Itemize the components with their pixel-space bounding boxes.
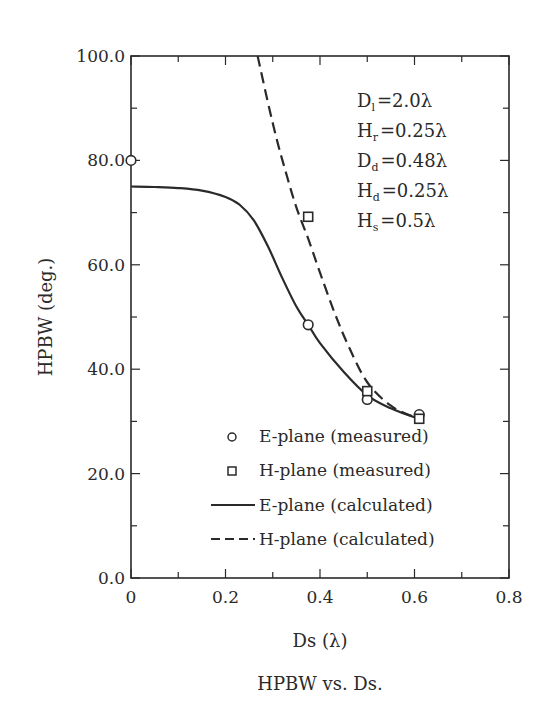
legend-item-e-plane-measured: E-plane (measured) (228, 426, 429, 446)
chart-caption: HPBW vs. Ds. (257, 673, 383, 694)
legend-label: H-plane (calculated) (259, 529, 435, 549)
parameter-hr: Hr=0.25λ (357, 120, 447, 144)
x-axis-label: Ds (λ) (293, 630, 348, 651)
y-axis-label: HPBW (deg.) (35, 258, 56, 377)
hpbw-chart: 00.20.40.60.80.020.040.060.080.0100.0 Dl… (0, 0, 552, 717)
h-plane-measured-point (415, 414, 424, 423)
axis-tick-labels: 00.20.40.60.80.020.040.060.080.0100.0 (76, 46, 522, 607)
x-tick-label: 0.4 (306, 587, 333, 607)
y-tick-label: 80.0 (87, 150, 125, 170)
parameter-dl: Dl=2.0λ (357, 90, 432, 114)
y-tick-label: 40.0 (87, 359, 125, 379)
x-tick-label: 0.2 (212, 587, 239, 607)
h-plane-measured-point (304, 212, 313, 221)
x-tick-label: 0.6 (401, 587, 428, 607)
parameter-hd: Hd=0.25λ (357, 180, 448, 204)
y-tick-label: 0.0 (98, 568, 125, 588)
e-plane-measured-point (126, 156, 136, 166)
e-plane-measured-point (303, 320, 313, 330)
legend-circle-marker-icon (228, 433, 236, 441)
data-series (126, 56, 424, 423)
legend-item-e-plane-calculated: E-plane (calculated) (211, 495, 433, 515)
legend-label: E-plane (measured) (259, 426, 429, 446)
legend: E-plane (measured)H-plane (measured)E-pl… (211, 426, 435, 549)
legend-label: E-plane (calculated) (259, 495, 433, 515)
parameter-dd: Dd=0.48λ (357, 150, 447, 174)
x-tick-label: 0.8 (495, 587, 522, 607)
x-tick-label: 0 (126, 587, 137, 607)
h-plane-measured-point (363, 387, 372, 396)
y-tick-label: 60.0 (87, 255, 125, 275)
legend-label: H-plane (measured) (259, 460, 431, 480)
parameter-annotations: Dl=2.0λHr=0.25λDd=0.48λHd=0.25λHs=0.5λ (357, 90, 448, 234)
parameter-hs: Hs=0.5λ (357, 210, 435, 234)
legend-square-marker-icon (228, 467, 236, 475)
y-tick-label: 100.0 (76, 46, 125, 66)
legend-item-h-plane-calculated: H-plane (calculated) (211, 529, 435, 549)
y-tick-label: 20.0 (87, 464, 125, 484)
legend-item-h-plane-measured: H-plane (measured) (228, 460, 431, 480)
